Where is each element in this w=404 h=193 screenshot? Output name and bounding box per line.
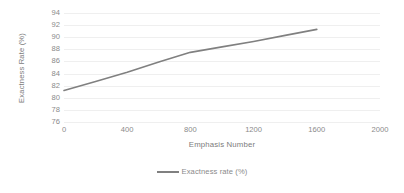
y-axis-tick-labels: 76788082848688909294	[30, 0, 60, 193]
y-axis-tick-label: 84	[32, 70, 60, 78]
x-axis-tick-label: 1600	[297, 125, 337, 135]
y-axis-tick-label: 88	[32, 45, 60, 53]
y-axis-tick-label: 80	[32, 94, 60, 102]
legend-color-swatch	[157, 171, 179, 173]
x-axis-tick-label: 400	[107, 125, 147, 135]
x-axis-tick-label: 0	[44, 125, 84, 135]
y-axis-tick-label: 90	[32, 33, 60, 41]
chart-legend: Exactness rate (%)	[0, 167, 404, 176]
y-axis-tick-label: 82	[32, 82, 60, 90]
y-axis-tick-label: 94	[32, 9, 60, 17]
x-axis-title: Emphasis Number	[64, 140, 380, 149]
x-axis-tick-labels: 0400800120016002000	[64, 125, 380, 137]
y-axis-tick-label: 92	[32, 21, 60, 29]
series-layer	[64, 13, 380, 122]
legend-entry[interactable]: Exactness rate (%)	[157, 167, 248, 176]
plot-area	[64, 13, 380, 122]
x-axis-tick-label: 2000	[360, 125, 400, 135]
x-axis-tick-label: 1200	[234, 125, 274, 135]
y-axis-tick-label: 86	[32, 57, 60, 65]
series-line-exactness-rate	[64, 29, 317, 90]
line-chart: Exactness Rate (%) 76788082848688909294 …	[0, 0, 404, 193]
x-axis-tick-label: 800	[170, 125, 210, 135]
legend-label: Exactness rate (%)	[182, 167, 248, 176]
y-axis-tick-label: 78	[32, 106, 60, 114]
gridline	[64, 122, 380, 123]
y-axis-title: Exactness Rate (%)	[14, 3, 30, 133]
